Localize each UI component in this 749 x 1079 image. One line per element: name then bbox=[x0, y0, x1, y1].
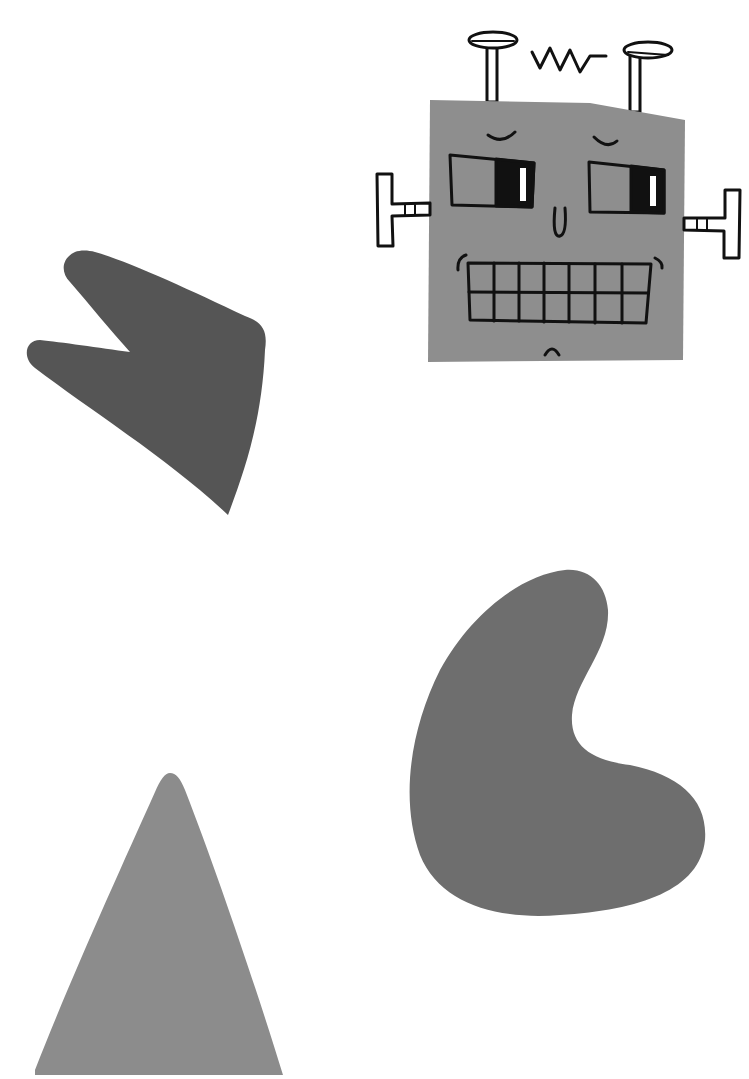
eye-right-icon bbox=[589, 162, 664, 213]
bolt-ear-left-icon bbox=[377, 174, 430, 246]
teeth-grin-icon bbox=[468, 263, 651, 323]
antenna-right-icon bbox=[624, 42, 672, 112]
zigzag-icon bbox=[532, 48, 606, 72]
notched-arrow-shape bbox=[27, 251, 266, 516]
bean-shape bbox=[410, 570, 706, 916]
triangle-shape bbox=[35, 773, 283, 1075]
bolt-ear-right-icon bbox=[684, 190, 740, 258]
eye-left-icon bbox=[450, 155, 534, 207]
illustration-canvas bbox=[0, 0, 749, 1079]
antenna-left-icon bbox=[469, 32, 517, 102]
robot-head bbox=[377, 32, 740, 362]
